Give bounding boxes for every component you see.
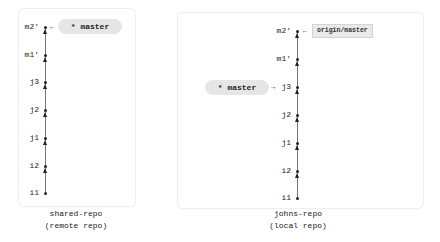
arrow-up-icon bbox=[43, 57, 47, 62]
shared-repo-caption: shared-repo (remote repo) bbox=[28, 208, 124, 232]
master-branch-pill: * master bbox=[205, 80, 269, 95]
commit-label: m1' bbox=[277, 54, 291, 64]
commit-label: j1 bbox=[281, 138, 291, 148]
arrow-up-icon bbox=[43, 140, 47, 145]
commit-label: i2 bbox=[281, 166, 291, 176]
johns-repo-caption: johns-repo (local repo) bbox=[250, 208, 346, 232]
arrow-up-icon bbox=[43, 168, 47, 173]
arrow-up-icon bbox=[295, 61, 299, 66]
arrow-up-icon bbox=[295, 33, 299, 38]
commit-label: m2' bbox=[25, 22, 39, 32]
repo-name: shared-repo bbox=[28, 208, 124, 220]
commit-label: j3 bbox=[29, 77, 39, 87]
commit-dot-icon bbox=[296, 197, 299, 200]
commit-label: i2 bbox=[29, 161, 39, 171]
origin-master-tag: origin/master bbox=[312, 24, 373, 38]
arrow-up-icon bbox=[43, 84, 47, 89]
arrow-up-icon bbox=[295, 173, 299, 178]
commit-label: j3 bbox=[281, 82, 291, 92]
repo-kind: (remote repo) bbox=[28, 220, 124, 232]
repo-kind: (local repo) bbox=[250, 220, 346, 232]
pointer-arrow-right-icon: → bbox=[271, 82, 275, 92]
commit-label: m1' bbox=[25, 50, 39, 60]
pointer-arrow-left-icon: ← bbox=[303, 26, 307, 36]
arrow-up-icon bbox=[295, 89, 299, 94]
commit-label: m2' bbox=[277, 26, 291, 36]
master-branch-pill: * master bbox=[58, 19, 122, 34]
commit-dot-icon bbox=[44, 192, 47, 195]
repo-name: johns-repo bbox=[250, 208, 346, 220]
arrow-up-icon bbox=[295, 117, 299, 122]
arrow-up-icon bbox=[43, 29, 47, 34]
commit-label: j2 bbox=[29, 105, 39, 115]
commit-label: j2 bbox=[281, 110, 291, 120]
arrow-up-icon bbox=[295, 145, 299, 150]
johns-repo-panel bbox=[177, 12, 424, 209]
commit-label: j1 bbox=[29, 133, 39, 143]
pointer-arrow-left-icon: ← bbox=[50, 22, 54, 32]
commit-label: i1 bbox=[29, 188, 39, 198]
arrow-up-icon bbox=[43, 112, 47, 117]
commit-label: i1 bbox=[281, 193, 291, 203]
